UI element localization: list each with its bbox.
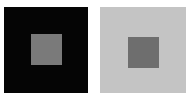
dark-background-square <box>4 7 88 93</box>
light-background-square <box>100 7 186 93</box>
gray-square-on-dark <box>31 34 62 65</box>
gray-square-on-light <box>128 37 159 68</box>
